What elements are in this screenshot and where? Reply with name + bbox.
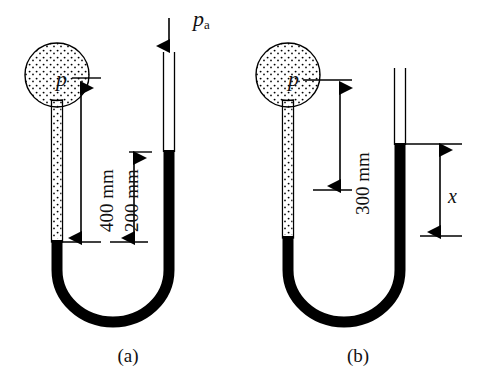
atmospheric-pressure-base: p bbox=[193, 6, 204, 31]
atmospheric-pressure-symbol: pa bbox=[193, 6, 210, 33]
left-tube-fluid-a bbox=[53, 106, 62, 239]
left-tube-fluid-b bbox=[284, 106, 293, 235]
dimension-label-200mm: 200 mm bbox=[121, 169, 143, 232]
caption-panel-b: (b) bbox=[318, 345, 398, 367]
manometer-figure bbox=[0, 0, 491, 381]
bulb-neck-b bbox=[283, 100, 294, 106]
dimension-label-300mm: 300 mm bbox=[352, 152, 374, 215]
figure-canvas: p p pa x 400 mm 200 mm 300 mm (a) (b) bbox=[0, 0, 491, 381]
dimension-label-400mm: 400 mm bbox=[96, 169, 118, 232]
bulb-pressure-symbol-a: p bbox=[56, 66, 67, 92]
bulb-neck-a bbox=[52, 100, 63, 106]
x-dimension-symbol: x bbox=[448, 185, 457, 208]
caption-panel-a: (a) bbox=[88, 345, 168, 367]
mercury-column-b bbox=[288, 143, 400, 322]
atmospheric-pressure-subscript: a bbox=[204, 17, 210, 32]
bulb-pressure-symbol-b: p bbox=[288, 66, 299, 92]
